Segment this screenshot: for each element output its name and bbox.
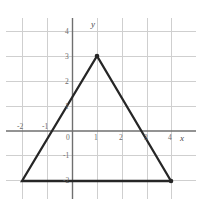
coordinate-graph: y x -2 -1 0 1 2 3 4 -2 -1 1 2 3 4 [0, 0, 205, 213]
x-tick-label--1: -1 [42, 123, 48, 131]
y-tick-label-1: 1 [65, 103, 69, 111]
y-tick-label-2: 2 [65, 78, 69, 86]
grid-lines-vertical [23, 18, 172, 199]
x-tick-label--2: -2 [17, 123, 23, 131]
y-axis-label: y [91, 20, 95, 29]
x-axis-label: x [180, 134, 184, 143]
y-tick-label-4: 4 [65, 28, 69, 36]
axis-lines [6, 18, 196, 199]
x-tick-label-4: 4 [168, 134, 172, 142]
plot-area [0, 0, 205, 213]
vertex-marker-bottom-right [169, 179, 174, 184]
y-tick-label--1: -1 [63, 152, 69, 160]
vertex-marker-apex [95, 54, 100, 59]
y-tick-label-3: 3 [65, 53, 69, 61]
triangle-shape [22, 56, 171, 181]
x-tick-label-1: 1 [94, 134, 98, 142]
x-tick-label-0: 0 [66, 134, 70, 142]
x-tick-label-3: 3 [144, 134, 148, 142]
x-tick-label-2: 2 [119, 134, 123, 142]
y-tick-label--2: -2 [63, 177, 69, 185]
